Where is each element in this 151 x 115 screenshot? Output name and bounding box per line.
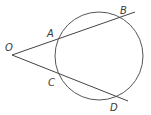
secant-line-OB (12, 12, 135, 55)
label-B: B (120, 5, 127, 16)
secant-line-OD (12, 55, 128, 101)
label-A: A (46, 28, 54, 39)
label-C: C (48, 77, 55, 88)
label-D: D (110, 102, 118, 113)
circle (55, 12, 143, 100)
secant-diagram: O A B C D (0, 0, 151, 115)
label-O: O (5, 42, 13, 53)
